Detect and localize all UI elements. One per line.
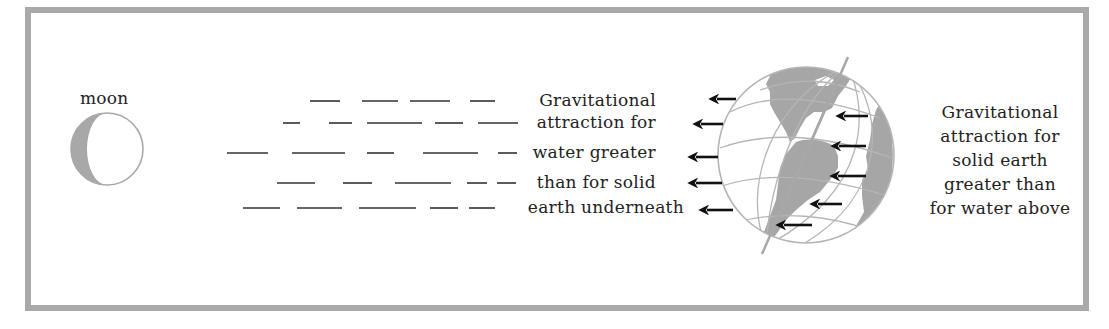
caption-line: solid earth [900, 148, 1100, 172]
moon-icon [71, 113, 143, 185]
caption-line: than for solid [537, 174, 656, 191]
caption-line: water greater [533, 144, 656, 161]
caption-line: Gravitational [539, 92, 656, 109]
solid-earth-attraction-caption: Gravitational attraction for solid earth… [900, 100, 1100, 220]
caption-line: earth underneath [528, 199, 684, 216]
caption-line: greater than [900, 172, 1100, 196]
caption-line: Gravitational [900, 100, 1100, 124]
moon-label: moon [80, 90, 128, 107]
caption-line: for water above [900, 196, 1100, 220]
water-dash-lines [227, 101, 518, 208]
caption-line: attraction for [900, 124, 1100, 148]
caption-line: attraction for [537, 114, 656, 131]
